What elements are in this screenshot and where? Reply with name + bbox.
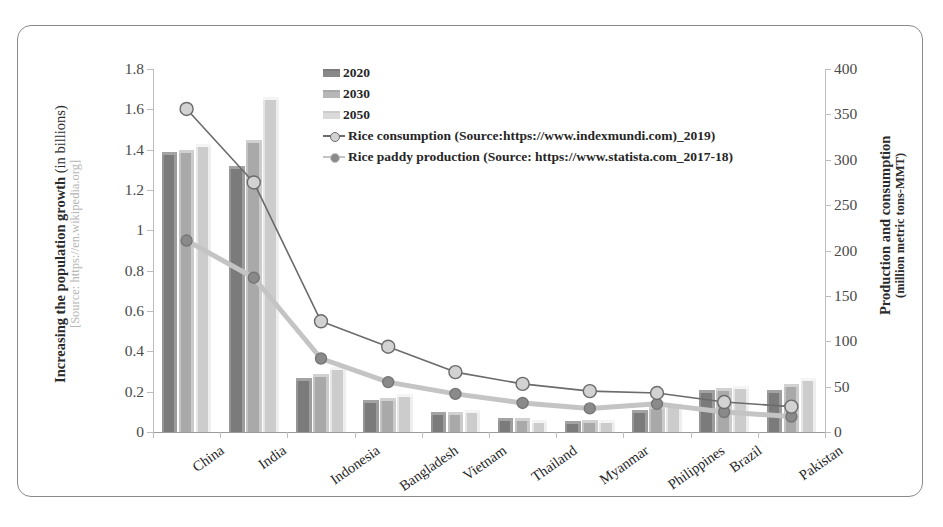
- x-axis-label: Thailand: [528, 442, 580, 485]
- y-axis-right-tick-label: 50: [834, 378, 850, 396]
- y-axis-left-tick-label: 1.4: [125, 141, 144, 159]
- x-axis-label: Myanmar: [596, 442, 652, 488]
- data-point-marker[interactable]: [583, 385, 596, 398]
- x-axis-label: Bangladesh: [396, 442, 461, 495]
- y-axis-left-tick-label: 1: [136, 221, 144, 239]
- x-axis-label: Indonesia: [327, 442, 383, 488]
- data-point-marker[interactable]: [718, 396, 731, 409]
- y-axis-left-tick-label: 0.8: [125, 262, 144, 280]
- y-axis-left-title: Increasing the population growth (in bil…: [44, 54, 90, 434]
- x-axis-label: Pakistan: [796, 442, 846, 484]
- x-axis-tick-mark: [153, 432, 154, 438]
- data-point-marker[interactable]: [584, 403, 595, 414]
- x-axis-label: India: [255, 442, 289, 473]
- data-point-marker[interactable]: [315, 315, 328, 328]
- y-axis-left-title-bold: Increasing the population growth: [52, 173, 68, 383]
- y-axis-left-tick-label: 1.2: [125, 181, 144, 199]
- x-axis-tick-mark: [422, 432, 423, 438]
- y-axis-right-tick-label: 0: [834, 423, 842, 441]
- y-axis-right-title-line2: (million metric tons-MMT): [893, 135, 907, 314]
- x-axis-tick-mark: [825, 432, 826, 438]
- y-axis-right-tick-label: 250: [834, 196, 857, 214]
- line-path: [187, 241, 792, 417]
- y-axis-right-tick-mark: [825, 205, 831, 206]
- y-axis-right-title-line1: Production and consumption: [877, 135, 893, 314]
- y-axis-right-tick-mark: [825, 387, 831, 388]
- data-point-marker[interactable]: [785, 400, 798, 413]
- y-axis-left-tick-label: 1.8: [125, 60, 144, 78]
- y-axis-right-tick-mark: [825, 251, 831, 252]
- x-axis-label: China: [189, 442, 227, 476]
- data-point-marker[interactable]: [316, 353, 327, 364]
- y-axis-left-title-light: (in billions): [52, 105, 68, 173]
- y-axis-right-tick-mark: [825, 296, 831, 297]
- y-axis-right-tick-mark: [825, 114, 831, 115]
- y-axis-right-tick-label: 350: [834, 105, 857, 123]
- y-axis-right-tick-label: 100: [834, 332, 857, 350]
- y-axis-left-tick-label: 0.2: [125, 383, 144, 401]
- y-axis-right-title: Production and consumption (million metr…: [870, 60, 914, 390]
- y-axis-left-tick-label: 1.6: [125, 100, 144, 118]
- x-axis-tick-mark: [691, 432, 692, 438]
- data-point-marker[interactable]: [449, 366, 462, 379]
- y-axis-right-tick-mark: [825, 341, 831, 342]
- data-point-marker[interactable]: [180, 102, 193, 115]
- x-axis-tick-mark: [758, 432, 759, 438]
- x-axis-label: Philippines: [665, 442, 728, 493]
- y-axis-left-tick-label: 0.4: [125, 342, 144, 360]
- x-axis-tick-mark: [355, 432, 356, 438]
- y-axis-right-tick-mark: [825, 69, 831, 70]
- y-axis-right-tick-label: 400: [834, 60, 857, 78]
- y-axis-right-tick-label: 300: [834, 151, 857, 169]
- data-point-marker[interactable]: [383, 377, 394, 388]
- y-axis-right-tick-label: 150: [834, 287, 857, 305]
- data-point-marker[interactable]: [247, 176, 260, 189]
- plot-area: 1.81.61.41.210.80.60.40.20 4003503002502…: [153, 69, 825, 432]
- x-axis-tick-mark: [220, 432, 221, 438]
- data-point-marker[interactable]: [450, 388, 461, 399]
- data-point-marker[interactable]: [248, 272, 259, 283]
- data-point-marker[interactable]: [181, 235, 192, 246]
- x-axis-tick-mark: [489, 432, 490, 438]
- x-axis-label: Vietnam: [460, 442, 510, 484]
- data-point-marker[interactable]: [382, 340, 395, 353]
- data-point-marker[interactable]: [517, 397, 528, 408]
- x-axis-tick-mark: [623, 432, 624, 438]
- y-axis-left-source: [Source: https://en.wikipedia.org]: [68, 105, 82, 383]
- line-path: [187, 109, 792, 407]
- y-axis-right-tick-mark: [825, 160, 831, 161]
- y-axis-right-tick-label: 200: [834, 242, 857, 260]
- chart-frame: Increasing the population growth (in bil…: [17, 25, 923, 497]
- y-axis-left-tick-label: 0: [136, 423, 144, 441]
- x-axis-label: Brazil: [727, 442, 766, 476]
- line-series-layer: [153, 69, 825, 432]
- x-axis-tick-mark: [556, 432, 557, 438]
- data-point-marker[interactable]: [516, 377, 529, 390]
- x-axis-tick-mark: [287, 432, 288, 438]
- y-axis-left-tick-label: 0.6: [125, 302, 144, 320]
- data-point-marker[interactable]: [651, 386, 664, 399]
